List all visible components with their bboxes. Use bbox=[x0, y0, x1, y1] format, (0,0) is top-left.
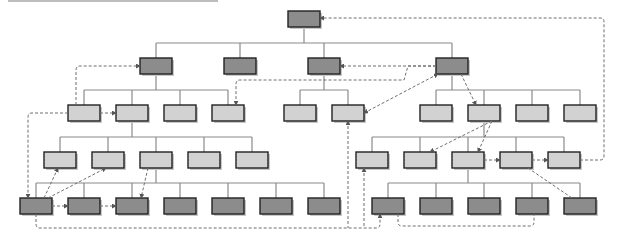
node-box bbox=[288, 11, 320, 27]
node-box bbox=[516, 105, 548, 121]
tree-node-a21[interactable] bbox=[44, 152, 78, 170]
node-box bbox=[140, 58, 172, 74]
tree-node-f5[interactable] bbox=[564, 198, 598, 216]
node-box bbox=[140, 152, 172, 168]
tree-node-d3[interactable] bbox=[516, 105, 550, 123]
node-box bbox=[236, 152, 268, 168]
tree-node-a1[interactable] bbox=[68, 105, 102, 123]
tree-node-root[interactable] bbox=[288, 11, 322, 29]
tree-node-d24[interactable] bbox=[500, 152, 534, 170]
node-box bbox=[516, 198, 548, 214]
node-box bbox=[164, 105, 196, 121]
tree-node-c2[interactable] bbox=[332, 105, 366, 123]
tree-node-d21[interactable] bbox=[356, 152, 390, 170]
node-box bbox=[68, 105, 100, 121]
dashed-link-d25-to-root bbox=[320, 18, 604, 160]
node-box bbox=[548, 152, 580, 168]
tree-node-f1[interactable] bbox=[372, 198, 406, 216]
node-box bbox=[164, 198, 196, 214]
node-box bbox=[356, 152, 388, 168]
tree-node-e6[interactable] bbox=[260, 198, 294, 216]
tree-node-a2[interactable] bbox=[116, 105, 150, 123]
tree-node-f3[interactable] bbox=[468, 198, 502, 216]
tree-node-a24[interactable] bbox=[188, 152, 222, 170]
tree-node-e1[interactable] bbox=[20, 198, 54, 216]
node-box bbox=[564, 105, 596, 121]
node-box bbox=[500, 152, 532, 168]
node-box bbox=[452, 152, 484, 168]
tree-node-c[interactable] bbox=[308, 58, 342, 76]
tree-node-e4[interactable] bbox=[164, 198, 198, 216]
node-box bbox=[468, 105, 500, 121]
node-box bbox=[468, 198, 500, 214]
node-box bbox=[92, 152, 124, 168]
tree-node-d[interactable] bbox=[436, 58, 470, 76]
node-box bbox=[308, 58, 340, 74]
tree-node-d4[interactable] bbox=[564, 105, 598, 123]
tree-node-f2[interactable] bbox=[420, 198, 454, 216]
node-box bbox=[332, 105, 364, 121]
node-box bbox=[420, 105, 452, 121]
tree-node-d25[interactable] bbox=[548, 152, 582, 170]
node-box bbox=[260, 198, 292, 214]
node-box bbox=[212, 105, 244, 121]
node-box bbox=[284, 105, 316, 121]
dashed-link-a1-to-a bbox=[76, 66, 140, 105]
node-box bbox=[20, 198, 52, 214]
tree-node-b[interactable] bbox=[224, 58, 258, 76]
tree-node-a[interactable] bbox=[140, 58, 174, 76]
tree-node-c1[interactable] bbox=[284, 105, 318, 123]
tree-node-d23[interactable] bbox=[452, 152, 486, 170]
tree-node-e3[interactable] bbox=[116, 198, 150, 216]
tree-node-e5[interactable] bbox=[212, 198, 246, 216]
node-box bbox=[44, 152, 76, 168]
tree-node-a4[interactable] bbox=[212, 105, 246, 123]
node-box bbox=[436, 58, 468, 74]
dashed-link-f1-to-f4 bbox=[398, 214, 534, 226]
tree-node-f4[interactable] bbox=[516, 198, 550, 216]
node-box bbox=[116, 198, 148, 214]
tree-node-e7[interactable] bbox=[308, 198, 342, 216]
tree-node-d22[interactable] bbox=[404, 152, 438, 170]
node-box bbox=[564, 198, 596, 214]
node-box bbox=[372, 198, 404, 214]
node-box bbox=[116, 105, 148, 121]
node-box bbox=[188, 152, 220, 168]
tree-node-a3[interactable] bbox=[164, 105, 198, 123]
node-box bbox=[308, 198, 340, 214]
tree-node-a23[interactable] bbox=[140, 152, 174, 170]
tree-node-d2[interactable] bbox=[468, 105, 502, 123]
tree-node-d1[interactable] bbox=[420, 105, 454, 123]
tree-node-e2[interactable] bbox=[68, 198, 102, 216]
node-box bbox=[212, 198, 244, 214]
node-box bbox=[420, 198, 452, 214]
node-box bbox=[404, 152, 436, 168]
tree-diagram bbox=[0, 0, 623, 241]
dashed-link-e1-to-f1 bbox=[36, 214, 380, 228]
tree-node-a22[interactable] bbox=[92, 152, 126, 170]
node-box bbox=[68, 198, 100, 214]
node-box bbox=[224, 58, 256, 74]
tree-node-a25[interactable] bbox=[236, 152, 270, 170]
